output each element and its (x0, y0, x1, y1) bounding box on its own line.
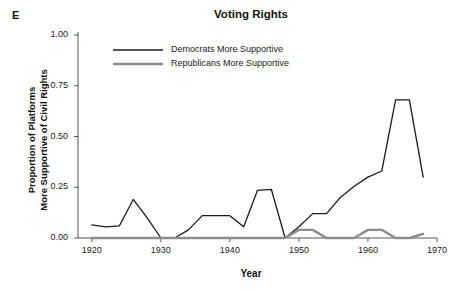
series-lines (92, 100, 423, 238)
legend-label: Republicans More Supportive (171, 58, 289, 68)
legend-label: Democrats More Supportive (171, 44, 283, 54)
legend-swatches (113, 50, 163, 64)
chart-figure: E Voting Rights Proportion of Platforms … (0, 0, 452, 291)
